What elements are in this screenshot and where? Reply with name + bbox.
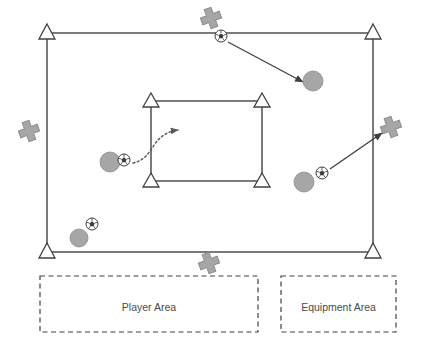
player-bottom-left-icon [70,229,88,247]
cone-inner-bottom-left-icon [143,173,159,187]
player-top-right-icon [303,71,323,91]
player-group [70,71,323,247]
marker-left-icon [16,118,42,144]
cone-field-bottom-left-icon [39,243,55,258]
dribble-arrow-center [133,130,178,163]
player-area-zone: Player Area [40,276,258,332]
ball-right-low-icon [316,167,328,179]
equipment-area-label: Equipment Area [301,301,376,313]
player-right-low-icon [294,172,314,192]
ball-left-center-icon [118,154,130,166]
cone-field-bottom-right-icon [365,243,381,258]
ball-top-icon [215,30,227,42]
cone-field-top-right-icon [365,24,381,39]
marker-right-icon [378,114,404,140]
inner-grid-boundary [151,101,262,181]
pass-arrow-right [330,133,382,169]
player-left-center-icon [100,152,120,172]
marker-bottom-icon [196,250,222,276]
drill-diagram: Player Area Equipment Area [0,0,424,349]
marker-top-icon [198,5,224,31]
cone-field-top-left-icon [39,24,55,39]
pass-arrow-top [228,42,303,82]
ball-bottom-left-icon [86,218,98,230]
cone-inner-top-left-icon [143,93,159,107]
ball-group [86,30,328,230]
equipment-area-zone: Equipment Area [281,276,396,332]
inner-grid-outline [151,101,262,181]
cone-inner-top-right-icon [254,93,270,107]
cone-inner-bottom-right-icon [254,173,270,187]
drill-canvas: Player Area Equipment Area [0,0,424,349]
player-area-label: Player Area [122,301,176,313]
